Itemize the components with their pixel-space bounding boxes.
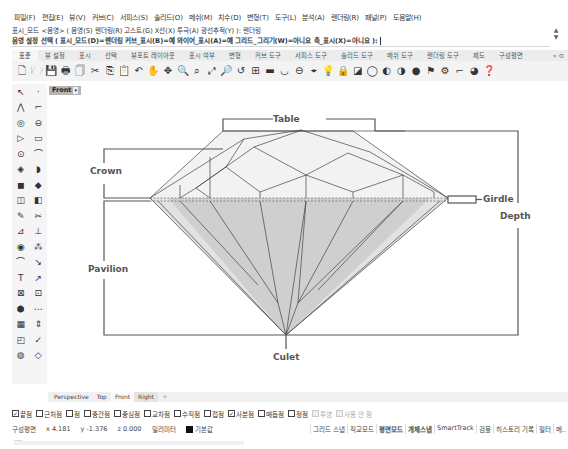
- viewport-tab-front[interactable]: Front: [111, 392, 134, 402]
- zoom-selected-icon[interactable]: 🔎: [220, 65, 232, 77]
- tab-cplanes[interactable]: 구성평면: [492, 50, 530, 61]
- open-folder-icon[interactable]: 🗁: [31, 65, 43, 77]
- box-solid-icon[interactable]: ◼: [15, 179, 27, 191]
- menu-curve[interactable]: 커브(C): [92, 12, 114, 22]
- fillet-edge-icon[interactable]: ↘: [32, 256, 44, 268]
- menu-file[interactable]: 파일(F): [14, 12, 36, 22]
- tab-drafting[interactable]: 제도: [466, 50, 492, 61]
- chevron-down-icon[interactable]: ▾: [73, 87, 78, 94]
- polygon-icon[interactable]: ⊙: [15, 148, 27, 160]
- viewport-tab-right[interactable]: Right: [134, 392, 158, 402]
- select-arrow-icon[interactable]: ↖: [15, 86, 27, 98]
- mode-toggle[interactable]: 그리드 스냅: [310, 424, 347, 434]
- check-icon[interactable]: ✓: [32, 334, 44, 346]
- osnap-checkbox[interactable]: 교차점: [144, 409, 170, 419]
- analyze-icon[interactable]: ◰: [15, 334, 27, 346]
- pan-hand-icon[interactable]: ✋: [147, 65, 159, 77]
- environment-icon[interactable]: ◕: [468, 65, 480, 77]
- wireframe-sphere-icon[interactable]: ◯: [366, 65, 378, 77]
- rendered-sphere-icon[interactable]: ◑: [395, 65, 407, 77]
- undo-icon[interactable]: ↶: [133, 65, 145, 77]
- menu-help[interactable]: 도움말(H): [393, 12, 422, 22]
- tab-display[interactable]: 표시: [72, 50, 98, 61]
- add-viewport-icon[interactable]: +: [158, 393, 172, 401]
- mode-toggle[interactable]: 히스토리 기록: [493, 424, 536, 434]
- block-icon[interactable]: ⊠: [15, 287, 27, 299]
- mode-toggle[interactable]: 필터: [536, 424, 553, 434]
- checkbox-unchecked-icon[interactable]: [258, 410, 265, 417]
- checkbox-unchecked-icon[interactable]: [114, 410, 121, 417]
- osnap-checkbox[interactable]: 사용 안 함: [336, 409, 372, 419]
- scroll-up-icon[interactable]: ▲: [552, 26, 560, 33]
- fillet-curve-icon[interactable]: ⌒: [32, 148, 44, 160]
- arc-icon[interactable]: ▷: [15, 132, 27, 144]
- command-scrollbar[interactable]: ▲ ▼: [552, 26, 560, 48]
- import-icon[interactable]: 🗍: [74, 65, 86, 77]
- set-view-icon[interactable]: ◡: [279, 65, 291, 77]
- scroll-down-icon[interactable]: ▼: [552, 33, 560, 40]
- grid-array-icon[interactable]: ▦: [15, 318, 27, 330]
- mode-toggle[interactable]: 직교모드: [347, 424, 376, 434]
- mode-toggle[interactable]: SmartTrack: [434, 424, 476, 434]
- mode-toggle[interactable]: 메..: [553, 424, 568, 434]
- checkbox-unchecked-icon[interactable]: [312, 410, 319, 417]
- checkbox-unchecked-icon[interactable]: [66, 410, 73, 417]
- trim-icon[interactable]: ⊿: [15, 225, 27, 237]
- named-view-icon[interactable]: ⊖: [293, 65, 305, 77]
- boolean-icon[interactable]: ✎: [15, 210, 27, 222]
- units-indicator[interactable]: 밀리미터: [152, 424, 176, 434]
- osnap-checkbox[interactable]: ✓끝점: [12, 409, 32, 419]
- cage-edit-icon[interactable]: ◇: [32, 349, 44, 361]
- explode-icon[interactable]: ⁂: [32, 241, 44, 253]
- more-tabs-button[interactable]: » ⊙: [553, 52, 568, 59]
- tab-standard[interactable]: 표준: [12, 50, 38, 61]
- mesh-icon[interactable]: ◫: [15, 194, 27, 206]
- osnap-checkbox[interactable]: 점: [66, 409, 80, 419]
- dimension-tool-icon[interactable]: ↗: [32, 272, 44, 284]
- menu-solid[interactable]: 솔리드(O): [154, 12, 183, 22]
- osnap-checkbox[interactable]: 중간점: [84, 409, 110, 419]
- viewport-tab-perspective[interactable]: Perspective: [50, 392, 93, 402]
- render-mesh-icon[interactable]: ⬢: [15, 303, 27, 315]
- viewport-title[interactable]: Front ▾: [49, 86, 81, 95]
- copy-icon[interactable]: ⎘: [104, 65, 116, 77]
- menu-dimension[interactable]: 치수(D): [218, 12, 241, 22]
- menu-surface[interactable]: 서피스(S): [120, 12, 148, 22]
- checkbox-unchecked-icon[interactable]: [84, 410, 91, 417]
- group-icon[interactable]: ◉: [15, 241, 27, 253]
- gumball-icon[interactable]: ⋯: [32, 303, 44, 315]
- curve-control-points-icon[interactable]: ⌐: [32, 101, 44, 113]
- front-viewport[interactable]: Table Crown Girdle Depth Pavilion Culet: [48, 95, 568, 392]
- tab-visibility[interactable]: 표시 여부: [182, 50, 222, 61]
- checkbox-unchecked-icon[interactable]: [144, 410, 151, 417]
- tab-surface-tools[interactable]: 서피스 도구: [288, 50, 334, 61]
- osnap-checkbox[interactable]: 근처점: [36, 409, 62, 419]
- rectangle-icon[interactable]: ▭: [32, 132, 44, 144]
- material-icon[interactable]: ⚑: [425, 65, 437, 77]
- surface-icon[interactable]: ◈: [15, 163, 27, 175]
- settings-gear-icon[interactable]: ⚙: [439, 65, 451, 77]
- help-icon[interactable]: ❓: [483, 65, 495, 77]
- mode-toggle[interactable]: 평면모드: [376, 424, 405, 434]
- osnap-checkbox[interactable]: 중심점: [114, 409, 140, 419]
- zoom-window-icon[interactable]: ⌕: [191, 65, 203, 77]
- point-icon[interactable]: ·: [32, 86, 44, 98]
- viewport-layout-icon[interactable]: ⊞: [250, 65, 262, 77]
- ellipse-icon[interactable]: ⊖: [32, 117, 44, 129]
- zoom-dynamic-icon[interactable]: 🔍: [177, 65, 189, 77]
- undo-view-icon[interactable]: ↺: [235, 65, 247, 77]
- dimension-icon[interactable]: ⌐: [454, 65, 466, 77]
- menu-view[interactable]: 뷰(V): [69, 12, 85, 22]
- join-icon[interactable]: ⊥: [32, 225, 44, 237]
- layer-icon[interactable]: ◪: [352, 65, 364, 77]
- lock-icon[interactable]: 🔒: [337, 65, 349, 77]
- align-icon[interactable]: ⇕: [32, 318, 44, 330]
- osnap-icon[interactable]: ⌖: [308, 65, 320, 77]
- menu-render[interactable]: 렌더링(R): [331, 12, 359, 22]
- osnap-checkbox[interactable]: ✓사분점: [228, 409, 254, 419]
- cplane-icon[interactable]: ▬: [264, 65, 276, 77]
- menu-mesh[interactable]: 메쉬(M): [189, 12, 213, 22]
- osnap-checkbox[interactable]: 정점: [288, 409, 308, 419]
- viewport-tab-top[interactable]: Top: [93, 392, 111, 402]
- tab-mesh-tools[interactable]: 메쉬 도구: [380, 50, 420, 61]
